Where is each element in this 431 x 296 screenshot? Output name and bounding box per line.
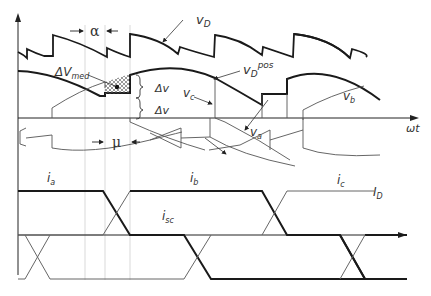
label-mu: μ [112, 134, 121, 150]
guide-lines [85, 25, 130, 280]
label-ia: ia [47, 171, 55, 187]
label-dv-lower: Δv [154, 104, 170, 117]
label-ID: ID [373, 185, 383, 201]
label-vb: vb [343, 89, 355, 105]
dVmed-hatch [105, 74, 130, 94]
dVmed-dot [115, 85, 119, 89]
label-alpha: α [90, 23, 100, 39]
label-vc: vc [183, 86, 195, 102]
label-dv-upper: Δv [154, 82, 170, 95]
dv-braces [136, 75, 143, 119]
label-vDpos: vDpos [243, 60, 274, 79]
commutation-diagram: vD vDpos ΔVmed Δv Δv vc vb va ωt α μ ia … [0, 0, 431, 296]
label-wt: ωt [406, 122, 420, 135]
wt-axis [18, 115, 419, 121]
vD-waveform-tail [294, 34, 350, 58]
label-vD: vD [196, 12, 211, 29]
label-ib: ib [190, 171, 198, 187]
label-ic: ic [337, 173, 345, 189]
label-isc: isc [162, 209, 175, 225]
label-va: va [250, 125, 262, 141]
phase-voltages [20, 78, 380, 166]
